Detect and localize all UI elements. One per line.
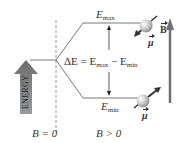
e-min-label: Emin — [101, 101, 119, 114]
zeeman-splitting-diagram: ENERGY Emax Emin ΔE = Emax − Emin μ μ B … — [0, 0, 178, 143]
diagram-graphics — [0, 0, 178, 143]
delta-e-equation: ΔE = Emax − Emin — [64, 56, 138, 69]
b-positive-label: B > 0 — [96, 128, 121, 139]
b-field-label: B — [160, 25, 167, 35]
mu-label-lower: μ — [142, 111, 148, 121]
energy-axis-label: ENERGY — [22, 74, 30, 110]
e-max-label: Emax — [96, 9, 115, 22]
spin-sphere-upper — [140, 20, 153, 33]
delta-e-up-arrow-icon — [107, 25, 111, 30]
mu-label-upper: μ — [148, 38, 154, 48]
delta-e-down-arrow-icon — [107, 91, 111, 96]
b-zero-label: B = 0 — [32, 128, 57, 139]
spin-sphere-lower — [137, 95, 150, 108]
